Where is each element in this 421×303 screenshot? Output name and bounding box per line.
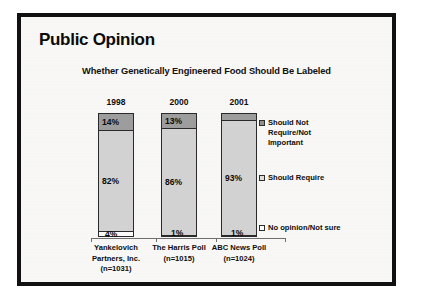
category-label-line2: (n=1024) xyxy=(199,254,279,265)
legend-label: Should Require xyxy=(268,173,324,183)
chart-title: Whether Genetically Engineered Food Shou… xyxy=(21,66,392,76)
axis-tick xyxy=(156,238,157,242)
slide-canvas: Public Opinion Whether Genetically Engin… xyxy=(21,17,392,282)
legend-swatch-icon xyxy=(259,175,265,181)
legend-label-line1: Should Not xyxy=(268,118,311,128)
bar-segment-label: 93% xyxy=(222,173,242,183)
legend-label: Should Not Require/Not Important xyxy=(268,118,311,148)
legend-swatch-icon xyxy=(259,120,265,126)
bar-segment-label: 14% xyxy=(99,117,119,127)
year-label-2001: 2001 xyxy=(216,97,262,107)
category-label-line3: (n=1031) xyxy=(76,264,156,275)
axis-tick xyxy=(216,238,217,242)
bar-stack-2001[interactable]: 6% 93% 1% xyxy=(221,113,257,238)
legend-label-line1: Should Require xyxy=(268,173,324,183)
legend-label-line3: Important xyxy=(268,138,311,148)
legend-item-no-opinion[interactable]: No opinion/Not sure xyxy=(259,223,341,233)
bar-segment-should-require[interactable]: 86% xyxy=(161,128,197,236)
bar-segment-should-not-require[interactable]: 14% xyxy=(98,113,134,131)
bar-stack-1998[interactable]: 14% 82% 4% xyxy=(98,113,134,238)
category-label-line1: ABC News Poll xyxy=(199,243,279,254)
bar-segment-label: 82% xyxy=(99,176,119,186)
legend-item-should-require[interactable]: Should Require xyxy=(259,173,324,183)
bar-segment-should-require[interactable]: 82% xyxy=(98,130,134,233)
legend-label: No opinion/Not sure xyxy=(268,223,341,233)
legend-item-should-not-require[interactable]: Should Not Require/Not Important xyxy=(259,118,311,148)
legend-swatch-icon xyxy=(259,225,265,231)
bar-segment-no-opinion[interactable]: 1% xyxy=(161,235,197,237)
year-label-2000: 2000 xyxy=(156,97,202,107)
bar-segment-should-require[interactable]: 93% xyxy=(221,120,257,236)
bar-segment-label: 13% xyxy=(162,116,182,126)
bar-segment-label: 86% xyxy=(162,177,182,187)
legend-label-line1: No opinion/Not sure xyxy=(268,223,341,233)
page-title: Public Opinion xyxy=(39,30,155,50)
bar-segment-should-not-require[interactable]: 13% xyxy=(161,113,197,129)
category-label-abc: ABC News Poll (n=1024) xyxy=(199,243,279,264)
slide-frame: Public Opinion Whether Genetically Engin… xyxy=(17,13,396,286)
bar-segment-no-opinion[interactable]: 4% xyxy=(98,231,134,237)
bar-stack-2000[interactable]: 13% 86% 1% xyxy=(161,113,197,238)
axis-tick xyxy=(285,238,286,242)
bar-segment-label: 1% xyxy=(225,228,243,238)
bar-segment-label: 1% xyxy=(165,228,183,238)
year-label-1998: 1998 xyxy=(93,97,139,107)
axis-tick xyxy=(91,238,92,242)
x-axis-line xyxy=(91,238,286,239)
legend-label-line2: Require/Not xyxy=(268,128,311,138)
bar-segment-no-opinion[interactable]: 1% xyxy=(221,235,257,237)
